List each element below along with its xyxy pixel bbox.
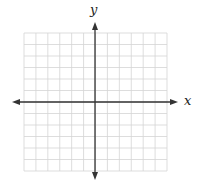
axes [12,22,178,180]
y-axis-label: y [90,3,97,16]
x-axis-label: x [184,94,191,107]
x-axis-left-arrow-icon [12,99,20,105]
x-axis-right-arrow-icon [170,99,178,105]
y-axis-up-arrow-icon [92,22,98,30]
coordinate-plane-svg [0,0,198,184]
y-axis-down-arrow-icon [92,172,98,180]
